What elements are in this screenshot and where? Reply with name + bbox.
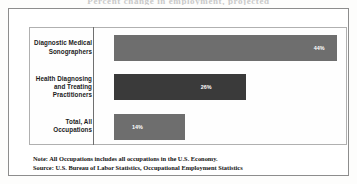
footnotes: Note: All Occupations includes all occup… — [33, 154, 333, 173]
chart-figure: Percent change in employment, projected … — [0, 0, 357, 184]
category-label-health-practitioners: Health Diagnosing and Treating Practitio… — [30, 67, 92, 106]
category-axis-spine — [93, 27, 94, 145]
bar-value-label: 26% — [201, 84, 212, 90]
plot-area: Diagnostic Medical Sonographers 44% Heal… — [29, 27, 347, 145]
bar-total-occupations: 14% — [114, 114, 185, 140]
chart-outer-frame: Diagnostic Medical Sonographers 44% Heal… — [8, 8, 349, 176]
bar-row: Total, All Occupations 14% — [30, 107, 348, 146]
footnote-source: Source: U.S. Bureau of Labor Statistics,… — [33, 163, 333, 172]
bar-row: Health Diagnosing and Treating Practitio… — [30, 67, 348, 106]
bar-sonographers: 44% — [114, 35, 337, 61]
category-label-total-occupations: Total, All Occupations — [30, 107, 92, 146]
bar-value-label: 14% — [132, 124, 143, 130]
footnote-note: Note: All Occupations includes all occup… — [33, 154, 333, 163]
clipped-chart-title: Percent change in employment, projected — [0, 0, 357, 5]
bar-health-practitioners: 26% — [114, 74, 246, 100]
bar-row: Diagnostic Medical Sonographers 44% — [30, 28, 348, 67]
category-label-sonographers: Diagnostic Medical Sonographers — [30, 28, 92, 67]
bar-value-label: 44% — [314, 45, 325, 51]
